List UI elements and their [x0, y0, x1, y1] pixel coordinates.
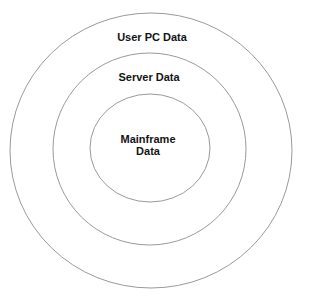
label-mainframe-line2: Data — [120, 145, 175, 157]
label-server-data: Server Data — [118, 71, 179, 83]
label-user-pc-data: User PC Data — [117, 31, 187, 43]
label-mainframe-line1: Mainframe — [120, 133, 175, 145]
label-mainframe-data: Mainframe Data — [120, 133, 175, 157]
